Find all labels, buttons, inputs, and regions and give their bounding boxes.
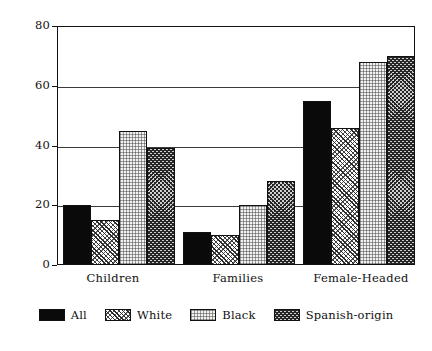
- chart-legend: All White Black Spanish-origin: [0, 309, 432, 321]
- x-label-families: Families: [183, 272, 293, 285]
- bar-children-white: [91, 220, 119, 265]
- x-label-female-headed: Female-Headed: [296, 272, 426, 285]
- bar-female-headed-spanish-origin: [387, 56, 415, 265]
- legend-swatch-white-icon: [105, 309, 131, 321]
- bar-female-headed-black: [359, 62, 387, 265]
- x-label-children: Children: [58, 272, 168, 285]
- bar-chart: 80 60 40 20 0 Children Famil: [0, 0, 432, 351]
- legend-swatch-all-icon: [39, 309, 65, 321]
- bar-families-black: [239, 205, 267, 265]
- bar-families-white: [211, 235, 239, 265]
- y-tick-mark-0: [52, 265, 57, 266]
- legend-label-all: All: [71, 309, 87, 321]
- legend-item-all: All: [39, 309, 87, 321]
- y-tick-label-20: 20: [10, 199, 50, 211]
- y-tick-label-80: 80: [10, 20, 50, 32]
- legend-label-black: Black: [222, 309, 255, 321]
- bar-families-all: [183, 232, 211, 265]
- legend-label-white: White: [137, 309, 172, 321]
- bar-children-all: [63, 205, 91, 265]
- legend-item-spanish-origin: Spanish-origin: [274, 309, 394, 321]
- y-tick-label-40: 40: [10, 140, 50, 152]
- bar-female-headed-all: [303, 101, 331, 265]
- y-tick-label-0: 0: [10, 259, 50, 271]
- bar-families-spanish-origin: [267, 181, 295, 265]
- legend-label-spanish-origin: Spanish-origin: [306, 309, 394, 321]
- y-tick-label-60: 60: [10, 80, 50, 92]
- legend-swatch-spanish-origin-icon: [274, 309, 300, 321]
- bar-female-headed-white: [331, 128, 359, 265]
- legend-item-white: White: [105, 309, 172, 321]
- bars-layer: [57, 26, 415, 265]
- bar-children-spanish-origin: [147, 148, 175, 265]
- legend-item-black: Black: [190, 309, 255, 321]
- legend-swatch-black-icon: [190, 309, 216, 321]
- bar-children-black: [119, 131, 147, 265]
